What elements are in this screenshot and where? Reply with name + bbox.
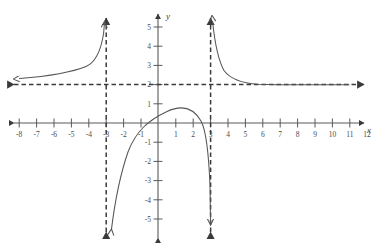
y-tick-label: 5	[147, 23, 151, 32]
x-tick-label: -6	[51, 130, 57, 139]
y-tick-label: -3	[145, 176, 151, 185]
x-tick-label: 8	[296, 130, 300, 139]
x-tick-label: -7	[33, 130, 39, 139]
x-tick-label: 2	[191, 130, 195, 139]
y-tick-label: -1	[145, 138, 151, 147]
x-tick-label: -2	[120, 130, 126, 139]
x-tick-label: -5	[68, 130, 74, 139]
y-tick-label: -5	[145, 215, 151, 224]
x-tick-label: 10	[329, 130, 337, 139]
x-tick-label: 4	[226, 130, 230, 139]
y-tick-label: -4	[145, 196, 151, 205]
x-tick-label: 1	[174, 130, 178, 139]
y-tick-label: -2	[145, 157, 151, 166]
x-tick-label: 7	[278, 130, 282, 139]
left-branch	[20, 22, 105, 79]
x-tick-label: 6	[261, 130, 265, 139]
x-axis-tick-labels: -8 -7 -6 -5 -4 -3 -2 -1 1 2 3 4 5 6 7 8 …	[16, 130, 371, 139]
x-tick-label: 9	[313, 130, 317, 139]
x-axis-label: x	[366, 125, 371, 135]
y-axis-label: y	[165, 11, 170, 21]
middle-branch	[112, 108, 211, 229]
x-tick-label: -1	[138, 130, 144, 139]
rational-function-graph: -8 -7 -6 -5 -4 -3 -2 -1 1 2 3 4 5 6 7 8 …	[0, 0, 380, 246]
x-tick-label: 5	[244, 130, 248, 139]
right-branch	[213, 22, 349, 85]
x-tick-label: 11	[346, 130, 353, 139]
x-tick-label: -4	[86, 130, 92, 139]
graph-canvas: -8 -7 -6 -5 -4 -3 -2 -1 1 2 3 4 5 6 7 8 …	[0, 0, 380, 246]
y-tick-label: 3	[147, 61, 151, 70]
x-tick-label: -8	[16, 130, 22, 139]
y-tick-label: 4	[147, 42, 151, 51]
y-tick-label: 1	[147, 100, 151, 109]
